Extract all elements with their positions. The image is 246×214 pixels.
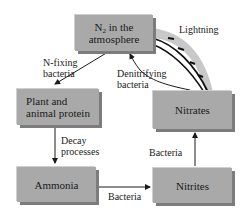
node-plant-animal-protein: Plant and animal protein — [17, 89, 99, 125]
label-denitrifying-bacteria: Denitrifying bacteria — [117, 68, 166, 90]
node-ammonia: Ammonia — [17, 167, 96, 202]
label-bacteria-ammonia-nitrites: Bacteria — [108, 191, 141, 202]
label-n-fixing-bacteria: N-fixing bacteria — [43, 57, 77, 79]
label-lightning: Lightning — [179, 24, 218, 35]
node-nitrites: Nitrites — [153, 168, 232, 203]
label-bacteria-nitrites-nitrates: Bacteria — [149, 147, 182, 158]
node-n2-atmosphere: N2 in the atmosphere — [75, 15, 153, 51]
node-nitrates: Nitrates — [153, 91, 232, 129]
label-decay-processes: Decay processes — [61, 135, 99, 157]
